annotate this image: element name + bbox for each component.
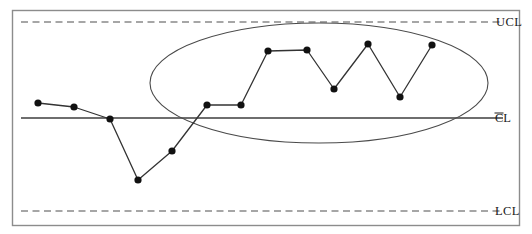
data-point [330, 85, 337, 92]
cl-label-group: CL [495, 111, 511, 125]
lcl-label: LCL [495, 204, 520, 218]
data-point [134, 176, 141, 183]
data-point [364, 40, 371, 47]
data-point [203, 101, 210, 108]
ucl-label: UCL [496, 15, 522, 29]
data-point [70, 103, 77, 110]
data-point [168, 147, 175, 154]
data-point [34, 99, 41, 106]
data-point [428, 41, 435, 48]
control-chart-canvas: UCL CL LCL [0, 0, 532, 234]
control-chart-figure: UCL CL LCL [0, 0, 532, 234]
data-point [303, 46, 310, 53]
data-point [106, 115, 113, 122]
data-point [396, 93, 403, 100]
data-point [237, 101, 244, 108]
data-point [264, 47, 271, 54]
